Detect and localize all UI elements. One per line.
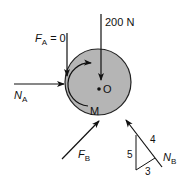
center-point-o <box>97 87 101 91</box>
free-body-diagram: O M 200 N FA = 0 NA FB NB 5 3 4 <box>0 0 184 182</box>
slope-hyp-label: 4 <box>150 134 156 145</box>
friction-a-label: FA = 0 <box>35 32 66 47</box>
slope-rise-label: 5 <box>127 149 133 160</box>
moment-label: M <box>90 105 99 117</box>
applied-load-label: 200 N <box>105 16 134 28</box>
slope-run-label: 3 <box>145 166 151 177</box>
normal-a-label: NA <box>14 89 28 104</box>
friction-b-label: FB <box>78 148 90 163</box>
center-label: O <box>103 83 112 95</box>
normal-b-label: NB <box>163 151 176 166</box>
